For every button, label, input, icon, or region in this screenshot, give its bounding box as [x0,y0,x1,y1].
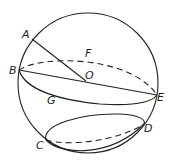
label-G: G [47,94,56,107]
sphere-diagram: A B F O G E D C [0,0,174,162]
label-B: B [9,64,17,77]
label-D: D [144,122,152,135]
label-F: F [85,47,92,60]
label-A: A [21,28,30,41]
radius-OA [32,39,86,81]
label-O: O [85,69,94,82]
label-C: C [36,139,44,152]
label-E: E [157,91,164,104]
small-circle-front-arc [46,124,144,151]
